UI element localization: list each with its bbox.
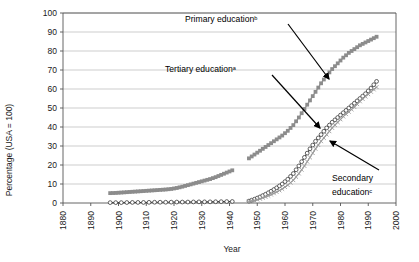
y-tick-label: 90 bbox=[48, 27, 58, 37]
y-axis-title: Percentage (USA = 100) bbox=[4, 104, 14, 197]
data-point-marker bbox=[311, 94, 315, 98]
y-tick-label: 30 bbox=[48, 141, 58, 151]
data-point-marker bbox=[303, 164, 307, 168]
data-point-marker bbox=[203, 200, 207, 204]
x-tick-label: 1900 bbox=[114, 211, 124, 230]
x-tick-label: 2000 bbox=[391, 211, 401, 230]
annotation-tertiary: Tertiary educationa bbox=[165, 64, 320, 128]
data-point-marker bbox=[311, 143, 315, 147]
y-tick-label: 0 bbox=[52, 198, 57, 208]
data-point-marker bbox=[300, 111, 304, 115]
data-point-marker bbox=[136, 201, 140, 205]
data-point-marker bbox=[294, 119, 298, 123]
annotation-arrow-secondary bbox=[330, 141, 379, 170]
data-point-marker bbox=[225, 200, 229, 204]
y-tick-label: 50 bbox=[48, 103, 58, 113]
annotation-label-secondary: Secondary bbox=[332, 173, 374, 183]
series-tertiary-education bbox=[108, 80, 378, 205]
data-point-marker bbox=[308, 147, 312, 151]
data-point-marker bbox=[375, 80, 379, 84]
x-tick-label: 1980 bbox=[336, 211, 346, 230]
data-point-marker bbox=[311, 151, 315, 155]
data-point-marker bbox=[108, 201, 112, 205]
data-point-marker bbox=[130, 201, 134, 205]
data-point-marker bbox=[175, 200, 179, 204]
x-tick-label: 1940 bbox=[225, 211, 235, 230]
y-tick-label: 40 bbox=[48, 122, 58, 132]
data-point-marker bbox=[214, 200, 218, 204]
x-axis-tick-labels: 1880189019001910192019301940195019601970… bbox=[58, 203, 401, 230]
x-tick-label: 1960 bbox=[280, 211, 290, 230]
x-axis-title: Year bbox=[223, 244, 240, 254]
data-point-marker bbox=[169, 200, 173, 204]
data-point-marker bbox=[314, 90, 318, 94]
y-tick-label: 100 bbox=[43, 8, 57, 18]
x-tick-label: 1970 bbox=[308, 211, 318, 230]
x-tick-label: 1920 bbox=[169, 211, 179, 230]
annotation-label2-secondary: educationc bbox=[332, 187, 372, 197]
data-point-marker bbox=[308, 99, 312, 103]
x-tick-label: 1930 bbox=[197, 211, 207, 230]
data-point-marker bbox=[319, 81, 323, 85]
annotation-label-tertiary: Tertiary educationa bbox=[165, 64, 237, 74]
data-point-marker bbox=[147, 200, 151, 204]
data-point-marker bbox=[230, 200, 234, 204]
data-point-marker bbox=[219, 200, 223, 204]
data-point-marker bbox=[305, 103, 309, 107]
y-tick-label: 60 bbox=[48, 84, 58, 94]
annotation-layer: Primary educationbTertiary educationaSec… bbox=[165, 14, 379, 197]
data-point-marker bbox=[297, 164, 301, 168]
y-tick-label: 80 bbox=[48, 46, 58, 56]
series-primary-education bbox=[108, 35, 378, 195]
annotation-secondary: Secondaryeducationc bbox=[330, 141, 379, 197]
data-point-marker bbox=[119, 201, 123, 205]
data-point-marker bbox=[316, 86, 320, 90]
data-point-marker bbox=[208, 200, 212, 204]
data-point-marker bbox=[328, 70, 332, 74]
data-point-marker bbox=[375, 35, 379, 39]
data-point-marker bbox=[297, 116, 301, 120]
y-axis-tick-labels: 0102030405060708090100 bbox=[43, 8, 63, 208]
data-point-marker bbox=[158, 200, 162, 204]
data-point-marker bbox=[322, 78, 326, 82]
education-percentage-line-chart: 0102030405060708090100 18801890190019101… bbox=[0, 0, 419, 262]
data-point-marker bbox=[316, 143, 320, 147]
x-tick-label: 1910 bbox=[141, 211, 151, 230]
data-point-marker bbox=[300, 168, 304, 172]
data-point-marker bbox=[164, 200, 168, 204]
y-tick-label: 10 bbox=[48, 179, 58, 189]
data-point-marker bbox=[125, 201, 129, 205]
annotation-label-primary: Primary educationb bbox=[185, 14, 257, 24]
x-tick-label: 1950 bbox=[252, 211, 262, 230]
data-point-marker bbox=[192, 200, 196, 204]
data-point-marker bbox=[305, 160, 309, 164]
data-point-marker bbox=[230, 168, 234, 172]
data-point-marker bbox=[308, 156, 312, 160]
gridlines bbox=[63, 13, 396, 184]
data-point-marker bbox=[297, 172, 301, 176]
x-tick-label: 1890 bbox=[86, 211, 96, 230]
chart-container: 0102030405060708090100 18801890190019101… bbox=[0, 0, 419, 262]
y-tick-label: 20 bbox=[48, 160, 58, 170]
x-tick-label: 1990 bbox=[363, 211, 373, 230]
data-point-marker bbox=[291, 123, 295, 127]
y-tick-label: 70 bbox=[48, 65, 58, 75]
data-point-marker bbox=[153, 200, 157, 204]
data-point-marker bbox=[142, 201, 146, 205]
data-point-marker bbox=[314, 139, 318, 143]
data-point-marker bbox=[180, 200, 184, 204]
data-point-marker bbox=[314, 147, 318, 151]
data-point-marker bbox=[303, 156, 307, 160]
data-point-marker bbox=[197, 200, 201, 204]
data-point-marker bbox=[186, 200, 190, 204]
data-point-marker bbox=[300, 160, 304, 164]
data-point-marker bbox=[305, 151, 309, 155]
x-tick-label: 1880 bbox=[58, 211, 68, 230]
data-point-marker bbox=[375, 85, 379, 89]
data-point-marker bbox=[114, 201, 118, 205]
data-point-marker bbox=[294, 168, 298, 172]
